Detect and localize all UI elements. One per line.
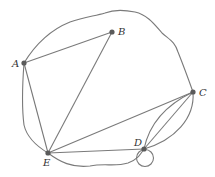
edge-e-c [48,92,193,153]
node-a [21,60,26,65]
edge-b-e [48,32,112,153]
edge-a-e-straight [24,63,48,153]
edge-d-loop [137,150,154,167]
graph-diagram: A B C D E [0,0,215,177]
edge-e-d-straight [48,149,144,153]
label-c: C [199,87,207,98]
node-d [141,146,146,151]
label-a: A [11,58,19,69]
edge-e-d-curved [48,149,144,166]
label-e: E [42,157,51,168]
node-c [190,89,195,94]
label-d: D [133,137,142,148]
node-b [109,29,114,34]
edge-a-c-outer [24,10,193,92]
node-e [45,150,50,155]
label-b: B [117,26,125,37]
edge-a-b [24,32,112,63]
